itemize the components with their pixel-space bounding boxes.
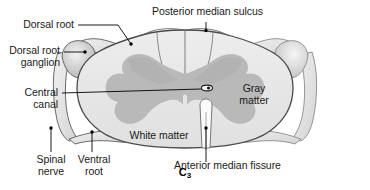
caption-subscript: 3 bbox=[187, 171, 191, 180]
label-ventral-root-line1: Ventral bbox=[65, 154, 123, 166]
dot-spinal-nerve bbox=[49, 126, 52, 129]
dot-ventral-root bbox=[90, 130, 93, 133]
label-central-canal-line1: Central bbox=[0, 87, 58, 99]
dot-dorsal-root-ganglion bbox=[83, 50, 86, 53]
spinal-cord-cross-section-figure: Posterior median sulcus Dorsal root Dors… bbox=[0, 0, 370, 190]
label-gray-matter-line2: matter bbox=[228, 95, 280, 107]
label-white-matter: White matter bbox=[118, 130, 200, 142]
dot-posterior-median-sulcus bbox=[204, 29, 207, 32]
dot-anterior-median-fissure bbox=[204, 126, 207, 129]
figure-caption: C3 bbox=[0, 166, 370, 178]
caption-letter: C bbox=[179, 166, 187, 178]
label-posterior-median-sulcus: Posterior median sulcus bbox=[130, 6, 285, 18]
label-dorsal-root-ganglion-line2: ganglion bbox=[0, 57, 60, 69]
dot-dorsal-root bbox=[129, 42, 132, 45]
label-dorsal-root: Dorsal root bbox=[0, 19, 74, 31]
label-gray-matter-line1: Gray bbox=[228, 83, 280, 95]
label-central-canal-line2: canal bbox=[0, 99, 58, 111]
label-dorsal-root-ganglion-line1: Dorsal root bbox=[0, 45, 60, 57]
central-canal-lumen bbox=[207, 87, 210, 90]
